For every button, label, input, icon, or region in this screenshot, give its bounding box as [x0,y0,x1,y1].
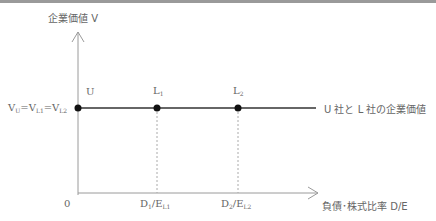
point-label-u: U [86,86,94,97]
point-label-l1: L1 [153,85,163,97]
v-l2-base: =V [44,102,60,113]
value-equality-label: VU=VL1=VL2 [8,102,67,114]
v-l2-sub: L2 [59,107,67,114]
point-label-l1-base: L [153,85,160,96]
x-tick-2-num: D [221,198,229,209]
point-label-l2-sub: 2 [240,90,244,97]
point-l2 [235,105,242,112]
y-axis-label: 企業価値 V [48,10,98,25]
point-label-l1-sub: 1 [160,90,164,97]
point-label-l2: L2 [233,85,243,97]
x-tick-1: D1/EL1 [140,198,170,210]
x-tick-1-den-sub: L1 [163,203,171,210]
x-tick-2-den-sub: L2 [244,203,252,210]
x-tick-2: D2/EL2 [221,198,251,210]
point-label-l2-base: L [233,85,240,96]
v-l1-base: =V [20,102,36,113]
v-l1-sub: L1 [36,107,44,114]
point-l1 [154,105,161,112]
x-axis-label: 負債･株式比率 D/E [322,198,408,213]
point-u [75,105,82,112]
legend-label: U 社と L 社の企業価値 [324,101,426,116]
x-tick-1-den: /E [152,198,163,209]
origin-label: 0 [64,198,70,209]
x-tick-1-num: D [140,198,148,209]
x-tick-2-den: /E [233,198,244,209]
